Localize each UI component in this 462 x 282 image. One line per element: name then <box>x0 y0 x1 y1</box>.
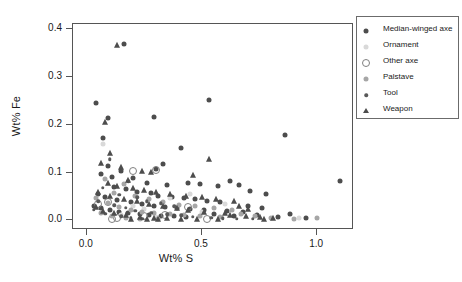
plot-frame <box>72 23 353 229</box>
legend-marker-icon <box>364 93 368 97</box>
data-point <box>251 217 255 221</box>
legend-marker-icon <box>364 45 369 50</box>
data-point <box>137 213 143 219</box>
legend-item-4[interactable]: Palstave <box>357 71 458 87</box>
data-point <box>174 205 180 211</box>
data-point <box>100 136 105 141</box>
data-point <box>245 206 251 212</box>
data-point <box>296 215 301 220</box>
data-point <box>261 215 267 221</box>
data-point <box>100 141 105 146</box>
x-tick-label: 1.0 <box>296 238 336 249</box>
data-point <box>270 214 276 220</box>
legend-box: Median-winged axeOrnamentOther axePalsta… <box>356 16 459 119</box>
data-point <box>315 216 320 221</box>
data-point <box>121 196 127 202</box>
data-point <box>139 168 145 174</box>
data-point <box>236 183 241 188</box>
legend-label: Ornament <box>383 40 419 49</box>
data-point <box>167 190 173 196</box>
data-point <box>185 207 191 213</box>
data-point <box>282 133 287 138</box>
data-point <box>338 179 343 184</box>
data-point <box>98 171 103 176</box>
y-tick-label: 0.4 <box>24 22 62 33</box>
data-point <box>98 160 104 166</box>
data-point <box>97 200 101 204</box>
data-point <box>146 201 152 207</box>
data-point <box>153 188 159 194</box>
legend-marker-icon <box>364 29 369 34</box>
data-point <box>117 205 122 210</box>
data-point <box>243 212 249 218</box>
data-point <box>211 205 216 210</box>
plot-data-area <box>73 24 352 228</box>
data-point <box>193 197 198 202</box>
data-point <box>141 186 147 192</box>
legend-item-3[interactable]: Other axe <box>357 55 458 71</box>
data-point <box>148 168 154 174</box>
data-point <box>209 216 213 220</box>
data-point <box>199 194 205 200</box>
data-point <box>227 211 233 217</box>
data-point <box>179 145 184 150</box>
scatter-plot-figure: Wt% Fe Wt% S 0.00.10.20.30.4 0.00.51.0 M… <box>0 0 462 282</box>
data-point <box>235 217 239 221</box>
x-axis-title: Wt% S <box>0 252 352 264</box>
data-point <box>160 161 165 166</box>
data-point <box>201 208 207 214</box>
data-point <box>114 183 120 189</box>
data-point <box>107 193 113 199</box>
data-point <box>105 201 110 206</box>
legend-marker-icon <box>362 59 370 67</box>
data-point <box>118 163 124 169</box>
legend-item-5[interactable]: Tool <box>357 87 458 103</box>
legend-marker-icon <box>363 108 369 113</box>
data-point <box>110 174 115 179</box>
data-point <box>123 187 128 192</box>
legend-item-1[interactable]: Median-winged axe <box>357 23 458 39</box>
y-axis-title: Wt% Fe <box>10 66 22 166</box>
data-point <box>183 192 189 198</box>
data-point <box>111 210 117 216</box>
data-point <box>94 101 99 106</box>
legend-label: Tool <box>383 88 398 97</box>
data-point <box>259 205 264 210</box>
data-point <box>130 185 136 191</box>
data-point <box>165 182 170 187</box>
data-point <box>216 184 221 189</box>
data-point <box>178 215 184 221</box>
x-tick-label: 0.0 <box>66 238 106 249</box>
data-point <box>113 203 117 207</box>
data-point <box>144 180 149 185</box>
data-point <box>190 172 196 178</box>
data-point <box>129 167 137 175</box>
x-tick-mark <box>201 229 202 235</box>
data-point <box>160 203 166 209</box>
data-point <box>102 119 108 125</box>
y-tick-label: 0.0 <box>24 213 62 224</box>
legend-item-6[interactable]: Weapon <box>357 103 458 119</box>
data-point <box>287 211 292 216</box>
data-point <box>133 209 137 213</box>
legend-item-2[interactable]: Ornament <box>357 39 458 55</box>
data-point <box>101 186 105 190</box>
data-point <box>105 164 110 169</box>
data-point <box>164 215 170 221</box>
data-point <box>194 215 200 221</box>
data-point <box>105 180 111 186</box>
data-point <box>193 204 198 209</box>
y-tick-label: 0.3 <box>24 70 62 81</box>
legend-marker-icon <box>364 77 369 82</box>
data-point <box>186 181 191 186</box>
data-point <box>303 215 308 220</box>
data-point <box>172 214 177 219</box>
data-point <box>95 188 101 194</box>
data-point <box>236 203 242 209</box>
data-point <box>223 202 228 207</box>
data-point <box>124 206 128 210</box>
data-point <box>144 216 150 222</box>
legend-label: Weapon <box>383 104 413 113</box>
data-point <box>213 196 219 202</box>
data-point <box>248 188 253 193</box>
